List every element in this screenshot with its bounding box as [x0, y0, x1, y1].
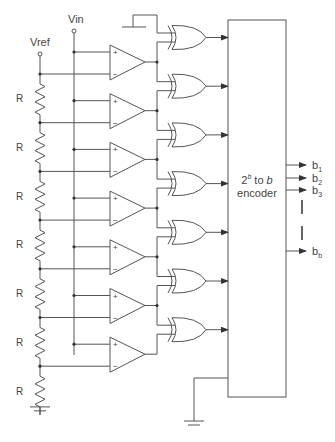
- xor-gate: [172, 318, 206, 342]
- resistor: [35, 279, 45, 310]
- minus-sign: −: [113, 314, 118, 323]
- encoder-block: [228, 20, 286, 397]
- encoder-label-line1: 2b to b: [241, 173, 272, 186]
- vref-terminal: [38, 52, 42, 56]
- flash-adc-diagram: Vref Vin RRRRRRR +−+−+−+−+−+−+− 2b to b …: [0, 0, 335, 442]
- resistor: [35, 376, 45, 407]
- resistor: [35, 181, 45, 212]
- resistor-label: R: [16, 288, 23, 299]
- junction-dot: [38, 170, 41, 173]
- plus-sign: +: [113, 145, 118, 154]
- resistor-label: R: [16, 337, 23, 348]
- minus-sign: −: [113, 216, 118, 225]
- junction-dot: [155, 207, 158, 210]
- junction-dot: [155, 304, 158, 307]
- resistor: [35, 133, 45, 164]
- xor-gate: [172, 172, 206, 196]
- ground-symbol-top: [122, 15, 157, 33]
- output-b3: b3: [312, 184, 322, 198]
- xor-gate: [172, 269, 206, 293]
- output-bb: bb: [312, 245, 322, 259]
- junction-dot: [72, 245, 75, 248]
- junction-dot: [72, 197, 75, 200]
- resistor: [35, 328, 45, 359]
- junction-dot: [38, 121, 41, 124]
- resistor: [35, 230, 45, 261]
- plus-sign: +: [113, 48, 118, 57]
- xor-gate: [172, 25, 206, 49]
- junction-dot: [38, 365, 41, 368]
- junction-dot: [72, 148, 75, 151]
- vin-terminal: [72, 29, 76, 33]
- junction-dot: [38, 316, 41, 319]
- resistor-label: R: [16, 191, 23, 202]
- resistor: [35, 84, 45, 115]
- minus-sign: −: [113, 119, 118, 128]
- junction-dot: [38, 219, 41, 222]
- minus-sign: −: [113, 265, 118, 274]
- junction-dot: [72, 294, 75, 297]
- minus-sign: −: [113, 70, 118, 79]
- junction-dot: [155, 158, 158, 161]
- resistor-ladder: RRRRRRR: [16, 74, 50, 415]
- vin-label: Vin: [68, 13, 84, 25]
- xor-gate: [172, 123, 206, 147]
- junction-dot: [38, 72, 41, 75]
- resistor-label: R: [16, 386, 23, 397]
- vref-label: Vref: [30, 36, 51, 48]
- plus-sign: +: [113, 97, 118, 106]
- junction-dot: [72, 99, 75, 102]
- resistor-label: R: [16, 239, 23, 250]
- ground-symbol-encoder: [184, 378, 228, 425]
- junction-dot: [155, 255, 158, 258]
- plus-sign: +: [113, 243, 118, 252]
- junction-dot: [72, 50, 75, 53]
- xor-gate-bank: [157, 25, 228, 341]
- junction-dot: [155, 60, 158, 63]
- resistor-label: R: [16, 142, 23, 153]
- junction-dot: [155, 109, 158, 112]
- plus-sign: +: [113, 292, 118, 301]
- encoder-label-line2: encoder: [237, 187, 277, 199]
- output-b1: b1: [312, 159, 322, 173]
- xor-gate: [172, 74, 206, 98]
- resistor-label: R: [16, 93, 23, 104]
- comparator-bank: +−+−+−+−+−+−+−: [38, 42, 158, 372]
- plus-sign: +: [113, 340, 118, 349]
- minus-sign: −: [113, 167, 118, 176]
- junction-dot: [72, 343, 75, 346]
- minus-sign: −: [113, 362, 118, 371]
- xor-gate: [172, 220, 206, 244]
- output-bits: b1 b2 b3 bb: [286, 159, 322, 259]
- junction-dot: [38, 267, 41, 270]
- plus-sign: +: [113, 194, 118, 203]
